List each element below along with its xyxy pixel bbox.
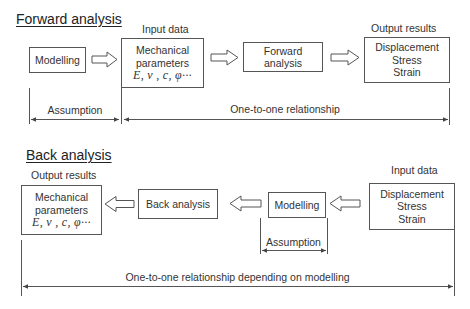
arrow-right-icon <box>331 50 359 65</box>
arrow-right-icon <box>211 50 238 65</box>
arrow-left-icon <box>330 196 360 211</box>
arrow-left-icon <box>230 196 261 211</box>
arrow-right-icon <box>92 52 117 67</box>
connectors-layer <box>0 0 470 309</box>
arrow-left-icon <box>105 197 134 212</box>
